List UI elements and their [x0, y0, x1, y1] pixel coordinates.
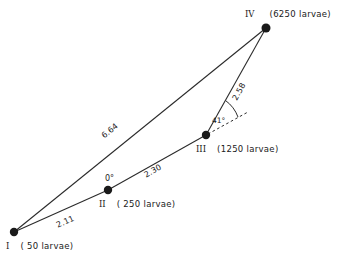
node-dot-III — [202, 131, 210, 139]
angle-arc-41 — [226, 101, 239, 118]
node-dot-I — [10, 228, 18, 236]
node-caption-IV: (6250 larvae) — [270, 9, 331, 19]
node-label-IV: IV (6250 larvae) — [245, 10, 331, 19]
node-label-I: I ( 50 larvae) — [6, 242, 73, 251]
diagram-canvas — [0, 0, 347, 260]
node-label-II: II ( 250 larvae) — [99, 200, 175, 209]
node-dot-IV — [262, 24, 271, 33]
node-caption-II: ( 250 larvae) — [117, 199, 176, 209]
node-caption-I: ( 50 larvae) — [20, 241, 73, 251]
angle-label-0: 0° — [105, 175, 114, 183]
node-roman-I: I — [6, 241, 9, 251]
node-roman-II: II — [99, 199, 106, 209]
dispersal-diagram: IV (6250 larvae) III (1250 larvae) II ( … — [0, 0, 347, 260]
node-dot-II — [104, 186, 112, 194]
node-roman-III: III — [196, 144, 206, 154]
node-label-III: III (1250 larvae) — [196, 145, 279, 154]
node-caption-III: (1250 larvae) — [217, 144, 278, 154]
node-roman-IV: IV — [245, 9, 255, 19]
angle-label-41: 41° — [212, 117, 225, 125]
